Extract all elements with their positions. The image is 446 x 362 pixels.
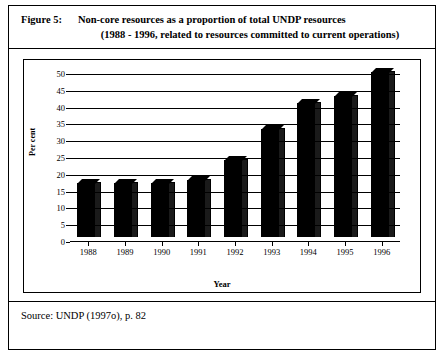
x-tick-label: 1990 — [142, 247, 182, 257]
bar-front-face — [297, 103, 315, 237]
x-axis-title: Year — [24, 279, 420, 289]
bar-front-face — [371, 72, 389, 237]
x-tick-mark — [198, 242, 199, 246]
bar-side-face — [315, 102, 321, 237]
y-tick-label: 45 — [57, 87, 66, 96]
y-tick-label: 35 — [57, 120, 66, 129]
y-gridline — [70, 124, 400, 125]
x-tick-mark — [382, 242, 383, 246]
bar-front-face — [334, 96, 352, 237]
y-tick-mark — [66, 124, 70, 125]
y-gridline — [70, 141, 400, 142]
y-tick-mark — [66, 91, 70, 92]
x-tick-label: 1991 — [178, 247, 218, 257]
x-tick-mark — [88, 242, 89, 246]
y-gridline — [70, 91, 400, 92]
y-tick-label: 15 — [57, 187, 66, 196]
bar-1991 — [187, 180, 209, 242]
y-tick-mark — [66, 158, 70, 159]
y-tick-mark — [66, 175, 70, 176]
x-tick-mark — [308, 242, 309, 246]
y-gridline — [70, 225, 400, 226]
bar-side-face — [279, 128, 285, 237]
y-tick-mark — [66, 192, 70, 193]
x-tick-mark — [235, 242, 236, 246]
bar-side-face — [352, 95, 358, 237]
bar-1992 — [224, 160, 246, 242]
bar-side-face — [132, 182, 138, 237]
bar-front-face — [261, 129, 279, 237]
y-tick-mark — [66, 108, 70, 109]
y-tick-mark — [66, 242, 70, 243]
figure-label: Figure 5: — [21, 13, 78, 27]
x-tick-mark — [162, 242, 163, 246]
figure-container: Figure 5: Non-core resources as a propor… — [8, 5, 436, 350]
x-tick-label: 1994 — [288, 247, 328, 257]
y-tick-label: 40 — [57, 103, 66, 112]
y-tick-label: 0 — [61, 238, 65, 247]
y-gridline — [70, 192, 400, 193]
chart-plot-frame: Per cent Year 05101520253035404550198819… — [23, 59, 421, 293]
y-gridline — [70, 158, 400, 159]
figure-title-line1: Non-core resources as a proportion of to… — [78, 13, 423, 27]
y-tick-label: 20 — [57, 171, 66, 180]
y-tick-mark — [66, 141, 70, 142]
x-tick-label: 1995 — [325, 247, 365, 257]
x-tick-label: 1989 — [105, 247, 145, 257]
y-tick-label: 10 — [57, 204, 66, 213]
caption-first-line: Figure 5: Non-core resources as a propor… — [21, 13, 423, 27]
x-tick-label: 1993 — [252, 247, 292, 257]
bar-chart-plot: 0510152025303540455019881989199019911992… — [70, 74, 400, 242]
chart-area: Per cent Year 05101520253035404550198819… — [9, 49, 435, 302]
y-gridline — [70, 175, 400, 176]
x-tick-mark — [125, 242, 126, 246]
figure-caption: Figure 5: Non-core resources as a propor… — [9, 6, 435, 49]
bar-1995 — [334, 96, 356, 242]
y-axis-title: Per cent — [28, 128, 37, 156]
x-tick-label: 1996 — [362, 247, 402, 257]
x-tick-label: 1988 — [68, 247, 108, 257]
x-tick-mark — [345, 242, 346, 246]
y-tick-label: 25 — [57, 154, 66, 163]
bar-side-face — [95, 182, 101, 237]
y-tick-mark — [66, 74, 70, 75]
y-tick-label: 30 — [57, 137, 66, 146]
y-tick-mark — [66, 208, 70, 209]
y-gridline — [70, 74, 400, 75]
figure-title-line2: (1988 - 1996, related to resources commi… — [21, 28, 423, 42]
y-gridline — [70, 208, 400, 209]
y-tick-label: 50 — [57, 70, 66, 79]
y-tick-label: 5 — [61, 221, 65, 230]
bar-side-face — [169, 182, 175, 237]
figure-source: Source: UNDP (1997o), p. 82 — [9, 302, 435, 329]
bar-side-face — [389, 71, 395, 237]
x-tick-mark — [272, 242, 273, 246]
y-tick-mark — [66, 225, 70, 226]
y-gridline — [70, 108, 400, 109]
x-tick-label: 1992 — [215, 247, 255, 257]
